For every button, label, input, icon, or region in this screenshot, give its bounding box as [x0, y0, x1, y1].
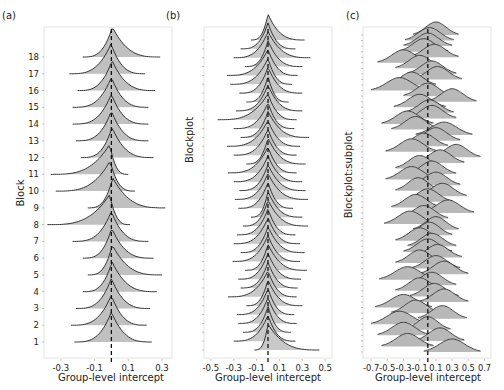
- y-tick-label: 11: [28, 169, 39, 179]
- panel-c-label: (c): [346, 10, 359, 21]
- panel-b-plot-area: [218, 15, 320, 364]
- y-tick-label: 14: [28, 119, 39, 129]
- y-tick-label: 3: [34, 303, 39, 313]
- panel-c-x-axis-label: Group-level intercept: [375, 372, 481, 383]
- y-tick-label: 10: [28, 186, 39, 196]
- panel-c: (c) -0.7-0.5-0.3-0.10.10.30.50.7 Group-l…: [343, 10, 491, 383]
- panel-a-label: (a): [2, 10, 16, 21]
- y-tick-label: 15: [28, 102, 39, 112]
- panel-a-plot-area: [47, 29, 165, 364]
- panel-b: (b) -0.5-0.3-0.10.10.30.5 Group-level in…: [166, 10, 332, 383]
- y-tick-label: 1: [34, 337, 39, 347]
- panel-a-x-ticks: -0.3-0.10.10.3: [53, 359, 169, 373]
- panel-a-x-axis-label: Group-level intercept: [58, 372, 164, 383]
- panel-a-y-ticks: 123456789101112131415161718: [28, 52, 44, 347]
- density-fill: [74, 313, 152, 342]
- panel-b-label: (b): [166, 10, 180, 21]
- y-tick-label: 2: [34, 320, 39, 330]
- panel-c-x-ticks: -0.7-0.5-0.3-0.10.10.30.50.7: [363, 359, 491, 373]
- y-tick-label: 12: [28, 153, 39, 163]
- y-tick-label: 9: [34, 203, 39, 213]
- density-fill: [83, 29, 161, 57]
- panel-b-x-axis-label: Group-level intercept: [215, 372, 321, 383]
- panel-a: (a) 123456789101112131415161718 -0.3-0.1…: [2, 10, 172, 383]
- y-tick-label: 8: [34, 220, 39, 230]
- y-tick-label: 7: [34, 236, 39, 246]
- y-tick-label: 16: [28, 86, 39, 96]
- panel-b-y-axis-label: Blockplot: [184, 117, 195, 163]
- y-tick-label: 18: [28, 52, 39, 62]
- ridgeline-figure: (a) 123456789101112131415161718 -0.3-0.1…: [0, 0, 504, 390]
- y-tick-label: 4: [34, 287, 39, 297]
- panel-b-x-ticks: -0.5-0.3-0.10.10.30.5: [203, 359, 332, 373]
- panel-a-y-axis-label: Block: [15, 179, 26, 206]
- y-tick-label: 17: [28, 69, 39, 79]
- y-tick-label: 6: [34, 253, 39, 263]
- panel-c-plot-area: [371, 22, 480, 364]
- panel-c-y-axis-label: Blockplot:subplot: [343, 132, 354, 219]
- y-tick-label: 13: [28, 136, 39, 146]
- y-tick-label: 5: [34, 270, 39, 280]
